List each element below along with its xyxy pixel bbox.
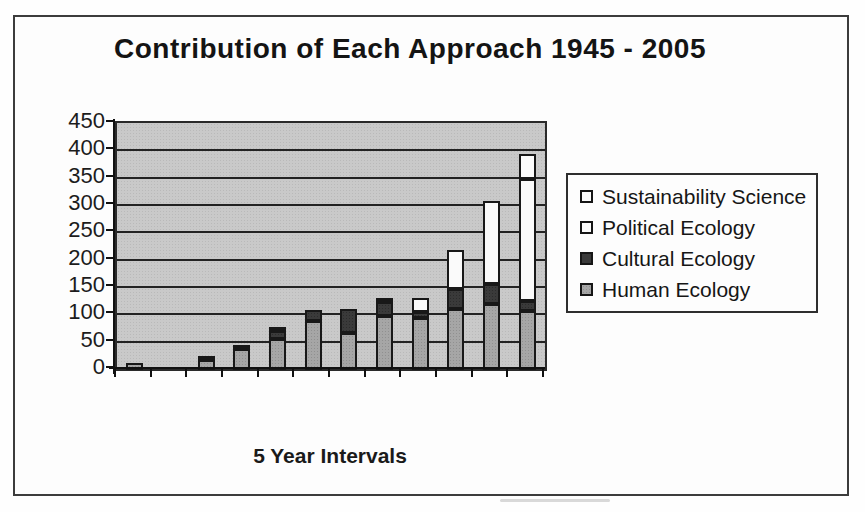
legend-swatch-icon (580, 283, 593, 296)
bar-segment-cultural-ecology (447, 289, 464, 309)
x-tick-mark (435, 369, 437, 377)
x-tick-mark (114, 369, 116, 377)
x-tick-mark (150, 369, 152, 377)
bar-segment-political-ecology (376, 298, 393, 302)
bar-segment-cultural-ecology (269, 331, 286, 339)
x-tick-mark (399, 369, 401, 377)
bar-segment-political-ecology (519, 179, 536, 301)
y-tick-label: 450 (53, 108, 105, 134)
y-tick-label: 300 (53, 190, 105, 216)
y-tick-label: 200 (53, 245, 105, 271)
gridline-150 (117, 286, 545, 288)
plot-area (115, 121, 547, 371)
legend-item-sustainability-science: Sustainability Science (580, 185, 816, 209)
y-tick-mark (106, 229, 113, 231)
legend-label: Sustainability Science (602, 185, 806, 209)
bar-segment-cultural-ecology (376, 302, 393, 316)
y-tick-mark (106, 257, 113, 259)
bar-segment-human-ecology (340, 333, 357, 370)
chart-title: Contribution of Each Approach 1945 - 200… (60, 33, 760, 65)
bar-segment-human-ecology (519, 311, 536, 370)
gridline-50 (117, 341, 545, 343)
gridline-400 (117, 149, 545, 151)
bar-segment-human-ecology (412, 318, 429, 370)
x-axis-line (109, 367, 545, 369)
y-tick-mark (106, 147, 113, 149)
y-tick-mark (106, 175, 113, 177)
y-tick-label: 150 (53, 272, 105, 298)
legend-label: Political Ecology (602, 216, 755, 240)
y-tick-label: 250 (53, 217, 105, 243)
bar-segment-political-ecology (447, 250, 464, 289)
y-tick-label: 100 (53, 299, 105, 325)
bar-segment-cultural-ecology (305, 310, 322, 321)
bar-segment-political-ecology (483, 201, 500, 284)
bar-segment-political-ecology (412, 298, 429, 312)
scan-artifact (500, 499, 610, 502)
gridline-200 (117, 259, 545, 261)
bar-segment-cultural-ecology (198, 356, 215, 360)
x-tick-mark (328, 369, 330, 377)
bar-segment-cultural-ecology (412, 312, 429, 319)
x-tick-mark (364, 369, 366, 377)
y-tick-label: 0 (53, 354, 105, 380)
legend-label: Human Ecology (602, 278, 750, 302)
x-tick-mark (257, 369, 259, 377)
bar-segment-human-ecology (483, 304, 500, 370)
bar-segment-human-ecology (269, 339, 286, 370)
x-tick-mark (506, 369, 508, 377)
legend-swatch-icon (580, 221, 593, 234)
bar-segment-cultural-ecology (519, 301, 536, 311)
x-tick-mark (471, 369, 473, 377)
bar-segment-cultural-ecology (483, 284, 500, 305)
x-tick-mark (542, 369, 544, 377)
x-tick-mark (221, 369, 223, 377)
bar-segment-cultural-ecology (233, 345, 250, 349)
gridline-350 (117, 177, 545, 179)
scanned-chart-page: Contribution of Each Approach 1945 - 200… (0, 0, 865, 512)
legend-swatch-icon (580, 252, 593, 265)
y-tick-mark (106, 366, 113, 368)
legend-item-cultural-ecology: Cultural Ecology (580, 247, 816, 271)
x-tick-mark (292, 369, 294, 377)
gridline-250 (117, 231, 545, 233)
y-tick-mark (106, 202, 113, 204)
bar-segment-human-ecology (305, 321, 322, 370)
x-tick-mark (185, 369, 187, 377)
gridline-300 (117, 204, 545, 206)
bar-segment-cultural-ecology (340, 309, 357, 333)
legend-swatch-icon (580, 190, 593, 203)
y-tick-mark (106, 284, 113, 286)
bar-segment-human-ecology (447, 309, 464, 370)
x-axis-title: 5 Year Intervals (180, 444, 480, 468)
legend-item-human-ecology: Human Ecology (580, 278, 816, 302)
bar-segment-human-ecology (376, 316, 393, 370)
bar-segment-sustainability-science (519, 154, 536, 179)
y-axis-line (113, 119, 115, 374)
legend: Sustainability SciencePolitical EcologyC… (566, 173, 818, 313)
gridline-100 (117, 313, 545, 315)
bar-segment-political-ecology (269, 327, 286, 331)
y-tick-label: 400 (53, 135, 105, 161)
y-tick-mark (106, 120, 113, 122)
y-tick-mark (106, 339, 113, 341)
legend-label: Cultural Ecology (602, 247, 755, 271)
y-tick-label: 350 (53, 163, 105, 189)
y-tick-mark (106, 311, 113, 313)
legend-item-political-ecology: Political Ecology (580, 216, 816, 240)
y-tick-label: 50 (53, 327, 105, 353)
